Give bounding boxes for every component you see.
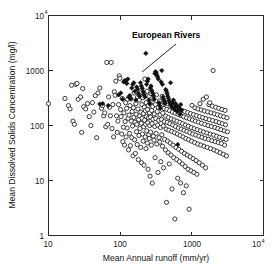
data-point-world xyxy=(116,119,120,123)
data-point-world xyxy=(195,172,199,176)
data-point-world xyxy=(127,131,131,135)
data-point-world xyxy=(181,191,185,195)
x-axis-title: Mean Annual runoff (mm/yr) xyxy=(103,253,209,263)
plot-canvas: European Rivers 10 4 1000 100 10 1 10 10… xyxy=(0,0,278,269)
data-point-world xyxy=(103,111,107,115)
data-point-world xyxy=(152,138,156,142)
x-tick-label-1000: 1000 xyxy=(183,240,202,249)
data-point-world xyxy=(160,133,164,137)
data-point-world xyxy=(150,181,154,185)
y-axis-title: Mean Dissolved Solids Concentration (mg/… xyxy=(7,41,17,208)
data-point-world xyxy=(135,122,139,126)
data-point-world xyxy=(139,145,143,149)
data-point-world xyxy=(170,187,174,191)
data-point-world xyxy=(225,130,229,134)
annotation-leader-line xyxy=(142,44,176,72)
data-point-world xyxy=(114,79,118,83)
data-point-world xyxy=(75,81,79,85)
x-tick-label-10000-base: 10 xyxy=(252,240,262,249)
data-point-world xyxy=(176,176,180,180)
data-point-world xyxy=(198,102,202,106)
data-point-world xyxy=(110,126,114,130)
data-point-world xyxy=(72,122,76,126)
data-point-european xyxy=(159,68,164,73)
data-point-world xyxy=(80,130,84,134)
data-point-world xyxy=(156,170,160,174)
data-point-world xyxy=(106,122,110,126)
data-point-world xyxy=(122,143,126,147)
x-tick-label-100: 100 xyxy=(113,240,127,249)
data-point-world xyxy=(120,132,124,136)
data-point-world xyxy=(63,96,67,100)
data-point-world xyxy=(148,174,152,178)
data-point-world xyxy=(85,102,89,106)
data-point-world xyxy=(69,83,73,87)
data-point-world xyxy=(164,200,168,204)
series-world-rivers xyxy=(46,60,229,221)
data-point-world xyxy=(154,131,158,135)
data-point-world xyxy=(187,207,191,211)
data-point-world xyxy=(203,166,207,170)
data-point-european xyxy=(168,80,173,85)
data-point-world xyxy=(149,130,153,134)
y-tick-label-1000: 1000 xyxy=(26,67,45,76)
data-point-world xyxy=(78,95,82,99)
data-point-world xyxy=(149,143,153,147)
data-point-world xyxy=(133,138,137,142)
data-point-world xyxy=(144,147,148,151)
data-point-world xyxy=(81,86,85,90)
x-tick-label-10: 10 xyxy=(43,240,53,249)
data-point-world xyxy=(225,116,229,120)
data-point-world xyxy=(124,135,128,139)
data-point-world xyxy=(142,163,146,167)
data-point-world xyxy=(161,166,165,170)
data-point-world xyxy=(90,101,94,105)
data-point-world xyxy=(158,140,162,144)
data-point-world xyxy=(46,102,50,106)
data-point-world xyxy=(173,217,177,221)
data-point-world xyxy=(133,151,137,155)
scatter-plot-figure: European Rivers 10 4 1000 100 10 1 10 10… xyxy=(0,0,278,269)
data-point-world xyxy=(145,89,149,93)
x-tick-label-10000-exp: 4 xyxy=(262,238,265,244)
data-point-world xyxy=(118,107,122,111)
data-point-world xyxy=(223,123,227,127)
data-point-world xyxy=(145,141,149,145)
data-point-world xyxy=(224,137,228,141)
data-point-world xyxy=(178,181,182,185)
data-point-world xyxy=(109,60,113,64)
data-point-world xyxy=(141,139,145,143)
data-point-world xyxy=(159,160,163,164)
data-point-world xyxy=(204,95,208,99)
data-point-world xyxy=(96,91,100,95)
data-point-world xyxy=(118,76,122,80)
data-point-world xyxy=(211,68,215,72)
data-point-world xyxy=(125,126,129,130)
y-tick-label-10: 10 xyxy=(35,177,45,186)
data-point-world xyxy=(131,106,135,110)
data-point-world xyxy=(146,167,150,171)
data-point-world xyxy=(68,107,72,111)
data-point-world xyxy=(160,144,164,148)
y-tick-labels: 10 4 1000 100 10 1 xyxy=(26,9,48,241)
data-point-world xyxy=(111,102,115,106)
data-point-world xyxy=(119,115,123,119)
data-point-world xyxy=(84,107,88,111)
data-point-world xyxy=(87,115,91,119)
data-point-world xyxy=(105,60,109,64)
data-point-world xyxy=(224,154,228,158)
x-tick-labels: 10 100 1000 10 4 xyxy=(43,238,264,250)
data-point-world xyxy=(223,143,227,147)
data-point-world xyxy=(184,184,188,188)
data-point-european xyxy=(144,51,149,56)
data-point-world xyxy=(153,156,157,160)
data-point-world xyxy=(122,111,126,115)
data-point-world xyxy=(223,108,227,112)
y-tick-label-10000-exp: 4 xyxy=(45,9,48,15)
y-tick-label-100: 100 xyxy=(30,122,44,131)
data-point-world xyxy=(147,136,151,140)
data-point-world xyxy=(89,123,93,127)
data-point-world xyxy=(92,110,96,114)
data-point-world xyxy=(107,95,111,99)
data-point-world xyxy=(108,114,112,118)
